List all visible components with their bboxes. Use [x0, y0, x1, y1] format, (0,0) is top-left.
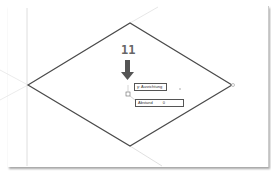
guide-line	[0, 85, 28, 100]
guide-line	[130, 7, 158, 23]
guide-line	[130, 146, 162, 166]
cursor-icon	[126, 92, 130, 96]
diamond-shape	[28, 23, 232, 146]
step-number: 11	[121, 43, 135, 57]
arrow-down-icon	[121, 72, 134, 80]
guide-line	[0, 70, 28, 85]
arrow-shaft	[125, 60, 130, 73]
alignment-input[interactable]: y: Ausrichtung	[134, 83, 167, 91]
distance-input[interactable]: Abstand0	[135, 99, 184, 107]
distance-label: Abstand	[138, 100, 153, 105]
distance-value[interactable]: 0	[163, 100, 165, 105]
vertex-marker	[232, 84, 235, 87]
alignment-label: y: Ausrichtung	[137, 84, 162, 89]
